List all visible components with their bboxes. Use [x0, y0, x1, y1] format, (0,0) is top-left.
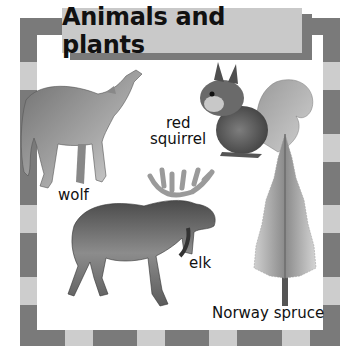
border-bottom-light-1 — [65, 330, 93, 346]
border-left-light-3 — [20, 277, 37, 305]
border-right-light-2 — [323, 134, 340, 162]
border-bottom-light-2 — [137, 330, 165, 346]
border-right-light-1 — [323, 62, 340, 90]
label-elk: elk — [189, 255, 211, 272]
norway-spruce-illustration — [250, 128, 320, 308]
border-bottom-light-3 — [209, 330, 237, 346]
label-wolf: wolf — [58, 187, 89, 204]
border-left-light-2 — [20, 205, 37, 233]
page-title: Animals and plants — [62, 3, 302, 59]
border-bottom-light-4 — [282, 330, 310, 346]
border-right-light-4 — [323, 277, 340, 305]
label-red-squirrel-line2: squirrel — [150, 131, 206, 148]
title-banner: Animals and plants — [62, 8, 302, 53]
label-norway-spruce: Norway spruce — [212, 305, 324, 322]
border-right-light-3 — [323, 205, 340, 233]
